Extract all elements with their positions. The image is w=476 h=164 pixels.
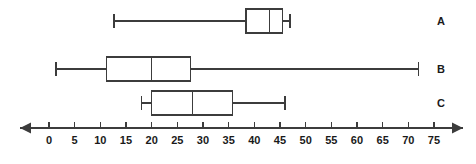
quartile-box xyxy=(106,57,190,81)
box-plot-figure: ABC 051015202530354045505560657075 xyxy=(0,0,476,164)
axis-arrow-left xyxy=(20,123,31,134)
box-plot-c xyxy=(141,91,285,115)
axis-tick-label: 75 xyxy=(419,135,449,146)
series-label-b: B xyxy=(437,64,445,75)
box-plot-b xyxy=(56,57,418,81)
quartile-box xyxy=(152,91,233,115)
quartile-box xyxy=(246,9,282,33)
number-line-axis xyxy=(20,122,463,134)
series-label-a: A xyxy=(437,16,445,27)
series-label-c: C xyxy=(437,98,445,109)
box-plot-series-group xyxy=(56,9,418,115)
axis-arrow-right xyxy=(452,123,463,134)
box-plot-a xyxy=(114,9,290,33)
